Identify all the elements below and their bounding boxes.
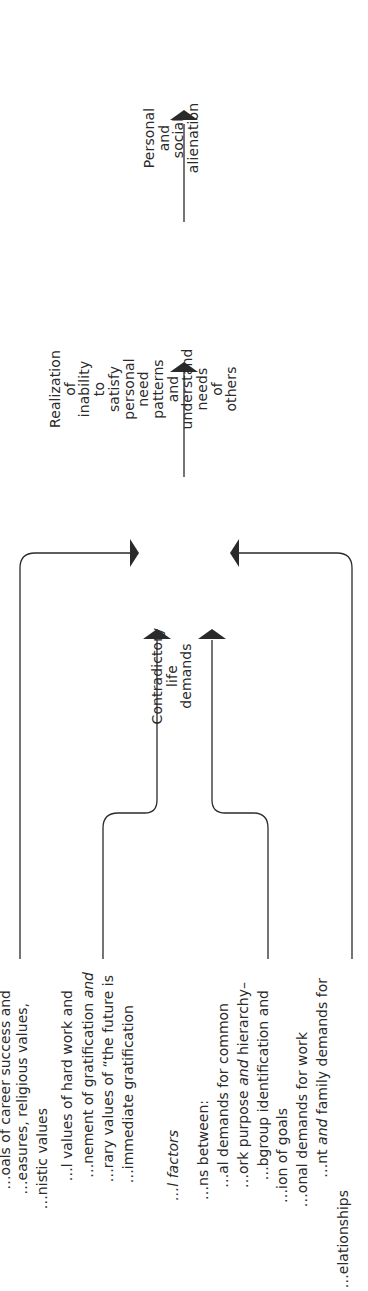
node-contradictory-life-demands: Contradictory life demands — [150, 616, 194, 736]
node-line: to — [92, 382, 107, 396]
source-text-line: …nement of gratification and — [81, 972, 95, 1291]
node-line: of — [63, 382, 78, 396]
connector-outer-right — [237, 553, 352, 959]
source-text-line: …bgroup identification and — [256, 990, 270, 1291]
node-line: and — [166, 376, 181, 403]
source-text-line: …ion of goals — [275, 1108, 289, 1291]
node-line: needs — [195, 368, 210, 411]
node-line: and — [157, 125, 172, 152]
source-text-line: …easures, religious values, — [15, 1003, 29, 1291]
node-line: patterns — [151, 359, 166, 419]
source-text-line: …l values of hard work and — [60, 990, 74, 1291]
node-line: need — [136, 371, 151, 406]
node-line: others — [224, 366, 239, 411]
arrowhead-outer-left — [130, 539, 139, 567]
node-line: Contradictory — [150, 628, 165, 725]
source-text-line: …l factors — [166, 1130, 180, 1291]
source-text-line: …al demands for common — [216, 1003, 230, 1291]
connector-outer-left — [20, 553, 132, 959]
source-text-line: …ns between: — [196, 1100, 210, 1291]
source-text-line: …immediate gratification — [121, 1005, 135, 1291]
node-line: personal — [122, 358, 137, 419]
connector-inner-right — [212, 640, 268, 959]
node-line: demands — [179, 643, 194, 708]
node-line: of — [210, 382, 225, 396]
node-line: alienation — [186, 103, 201, 173]
source-text-line: …nistic values — [35, 1108, 49, 1291]
node-realization-of-inability: Realization of inability to satisfy pers… — [48, 340, 239, 438]
node-line: understand — [180, 348, 195, 429]
source-text-line: …oals of career success and — [0, 990, 12, 1291]
arrowhead-outer-right — [230, 539, 239, 567]
source-text-line: …rary values of “the future is — [101, 975, 115, 1291]
source-text-line: …ork purpose and hierarchy– — [236, 982, 250, 1291]
node-line: satisfy — [107, 366, 122, 412]
node-line: Realization — [48, 350, 63, 428]
arrowhead-inner-right — [198, 629, 226, 639]
node-line: inability — [77, 361, 92, 418]
node-personal-social-alienation: Personal and social alienation — [142, 92, 201, 184]
source-text-line: …onal demands for work — [295, 1032, 309, 1291]
source-text-line: …elationships — [336, 1190, 350, 1291]
node-line: social — [171, 118, 186, 159]
node-line: Personal — [142, 108, 157, 168]
node-line: life — [165, 665, 180, 687]
source-text-line: …nt and family demands for — [315, 978, 329, 1291]
